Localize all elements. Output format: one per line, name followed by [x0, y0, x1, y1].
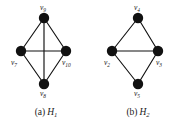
caption-name-sub-h2: 2	[146, 111, 149, 118]
edge-v9-v7	[21, 18, 44, 51]
caption-name-h2: H2	[139, 107, 149, 117]
vertex-v9	[39, 13, 49, 23]
caption-tag-h2: (b)	[126, 107, 137, 117]
graph-drawing-h2	[92, 0, 184, 104]
vertex-v3	[153, 46, 163, 56]
edge-v4-v3	[138, 18, 158, 51]
edge-v9-v10	[44, 18, 66, 51]
vertex-v4	[133, 13, 143, 23]
edge-v4-v2	[112, 18, 138, 51]
panel-graph-h2: v4v2v3v5 (b)H2	[92, 0, 184, 132]
edge-v7-v8	[21, 51, 44, 84]
vertex-label-v5: v5	[134, 90, 140, 98]
edge-v2-v5	[112, 51, 138, 84]
caption-name-h1: H1	[47, 107, 57, 117]
vertex-label-sub-v3: 3	[159, 62, 162, 68]
vertex-label-sub-v10: 10	[65, 62, 70, 68]
vertex-label-v9: v9	[40, 4, 46, 12]
vertex-v10	[61, 46, 71, 56]
caption-h1: (a)H1	[0, 107, 92, 117]
edge-v3-v5	[138, 51, 158, 84]
vertex-label-sub-v2: 2	[107, 62, 110, 68]
vertex-label-v2: v2	[104, 59, 110, 67]
figure-root: v9v7v10v8 (a)H1 v4v2v3v5 (b)H2	[0, 0, 184, 132]
vertex-label-sub-v7: 7	[14, 62, 17, 68]
vertex-label-sub-v5: 5	[137, 93, 140, 99]
vertex-label-v10: v10	[62, 59, 71, 67]
panel-graph-h1: v9v7v10v8 (a)H1	[0, 0, 92, 132]
vertex-label-v3: v3	[156, 59, 162, 67]
vertex-v2	[107, 46, 117, 56]
caption-name-sub-h1: 1	[54, 111, 57, 118]
vertex-label-sub-v9: 9	[43, 7, 46, 13]
caption-tag-h1: (a)	[35, 107, 46, 117]
vertex-label-v4: v4	[134, 4, 140, 12]
graph-drawing-h1	[0, 0, 92, 104]
vertex-v8	[39, 79, 49, 89]
vertex-label-sub-v4: 4	[137, 7, 140, 13]
vertex-v7	[16, 46, 26, 56]
caption-h2: (b)H2	[92, 107, 184, 117]
edge-v10-v8	[44, 51, 66, 84]
vertex-label-v8: v8	[40, 90, 46, 98]
vertex-v5	[133, 79, 143, 89]
vertex-label-v7: v7	[11, 59, 17, 67]
vertex-label-sub-v8: 8	[43, 93, 46, 99]
